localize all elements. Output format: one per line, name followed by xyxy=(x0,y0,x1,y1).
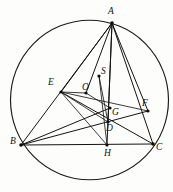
point-label-E: E xyxy=(48,78,54,88)
segment-BC xyxy=(21,144,153,145)
segment-EH xyxy=(61,92,107,145)
geometry-canvas xyxy=(0,0,173,192)
point-dot-A xyxy=(110,21,114,25)
geometry-figure: ABCEFHDGOS xyxy=(0,0,173,192)
point-dot-F xyxy=(146,109,149,112)
point-label-S: S xyxy=(101,67,106,77)
point-label-O: O xyxy=(82,83,89,93)
point-dot-B xyxy=(19,143,23,147)
point-dot-H xyxy=(105,143,108,146)
point-dot-C xyxy=(151,142,155,146)
segment-AO xyxy=(86,23,112,93)
point-dot-E xyxy=(59,90,62,93)
point-label-C: C xyxy=(156,143,162,153)
point-label-A: A xyxy=(108,7,114,17)
segment-CA xyxy=(112,23,153,144)
segment-OG xyxy=(86,93,110,108)
segment-EF xyxy=(61,92,148,111)
segment-BF xyxy=(21,111,148,145)
point-label-D: D xyxy=(106,124,113,134)
point-label-G: G xyxy=(112,108,119,118)
point-label-H: H xyxy=(104,149,111,159)
point-label-B: B xyxy=(10,137,16,147)
point-label-F: F xyxy=(142,99,148,109)
